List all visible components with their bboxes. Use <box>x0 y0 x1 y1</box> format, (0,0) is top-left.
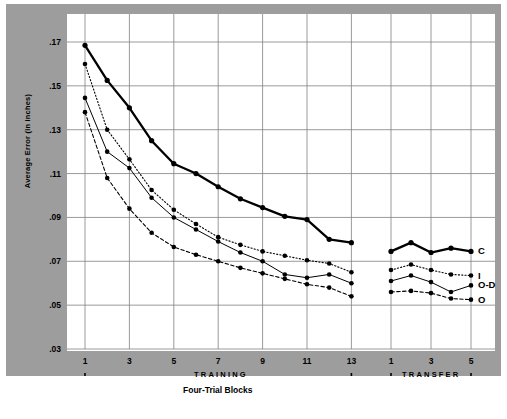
chart-page: Average Error (in inches) .17.15.13.11.0… <box>0 0 507 419</box>
x-tick-label-training: 1 <box>75 356 95 366</box>
y-tick-label: .09 <box>35 212 61 222</box>
x-tick-label-training: 3 <box>119 356 139 366</box>
y-tick-label: .11 <box>35 169 61 179</box>
y-tick-label: .03 <box>35 344 61 354</box>
series-label-od: O-D <box>478 279 495 290</box>
y-tick-label: .13 <box>35 125 61 135</box>
x-tick-label-training: 11 <box>297 356 317 366</box>
y-tick-label: .17 <box>35 37 61 47</box>
series-label-c: C <box>478 245 485 256</box>
plot-area <box>67 14 495 351</box>
chart-svg <box>67 14 495 351</box>
x-tick-label-training: 5 <box>164 356 184 366</box>
x-tick-label-training: 9 <box>253 356 273 366</box>
series-label-o: O <box>478 294 485 305</box>
x-axis-title: Four-Trial Blocks <box>183 385 252 395</box>
y-axis-title: Average Error (in inches) <box>21 81 35 201</box>
series-o <box>83 110 474 302</box>
phase-label-training: TRAINING <box>194 370 248 379</box>
x-tick-label-transfer: 1 <box>381 356 401 366</box>
phase-label-transfer: TRANSFER <box>402 370 460 379</box>
y-tick-label: .05 <box>35 300 61 310</box>
x-tick-label-training: 13 <box>341 356 361 366</box>
y-tick-label: .15 <box>35 81 61 91</box>
gridlines <box>67 14 495 349</box>
x-tick-label-transfer: 5 <box>461 356 481 366</box>
y-tick-label: .07 <box>35 256 61 266</box>
x-tick-label-training: 7 <box>208 356 228 366</box>
x-tick-label-transfer: 3 <box>421 356 441 366</box>
series-c <box>82 43 473 255</box>
figure-panel: Average Error (in inches) .17.15.13.11.0… <box>6 4 501 376</box>
